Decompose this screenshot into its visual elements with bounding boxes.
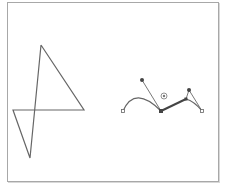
control-handle-point[interactable] [140, 78, 144, 82]
center-marker-dot [163, 95, 165, 97]
bezier-segment-selected[interactable] [161, 99, 186, 111]
drawing-surface[interactable] [0, 0, 228, 190]
bezier-segment-end[interactable] [186, 99, 202, 111]
control-handle-point[interactable] [187, 88, 191, 92]
anchor-point-selected[interactable] [159, 109, 163, 113]
bezier-segment-arch[interactable] [123, 98, 161, 111]
control-handle-line [142, 80, 161, 111]
anchor-point[interactable] [185, 98, 188, 101]
anchor-point-end[interactable] [201, 110, 204, 113]
zigzag-path[interactable] [13, 45, 84, 158]
anchor-point-start[interactable] [122, 110, 125, 113]
